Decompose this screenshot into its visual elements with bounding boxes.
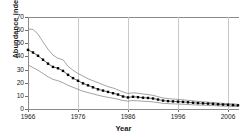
data-point-marker [152, 97, 154, 99]
data-point-marker [187, 101, 189, 103]
data-point-marker [117, 93, 119, 95]
data-point-marker [192, 101, 194, 103]
abundance-index-chart: Abundance index Year 010203040506070 196… [0, 0, 247, 137]
data-point-marker [212, 103, 214, 105]
data-point-marker [237, 104, 239, 106]
data-point-marker [197, 102, 199, 104]
data-point-marker [147, 97, 149, 99]
data-point-marker [77, 80, 79, 82]
data-point-marker [172, 100, 174, 102]
data-point-marker [72, 77, 74, 79]
data-point-marker [62, 70, 64, 72]
data-curves [28, 17, 239, 110]
data-point-marker [177, 100, 179, 102]
data-point-marker [47, 62, 49, 64]
data-point-marker [37, 55, 39, 57]
lower-confidence-line [28, 65, 238, 107]
x-tick-1986: 1986 [108, 113, 148, 120]
x-tick-2006: 2006 [208, 113, 247, 120]
data-point-marker [112, 92, 114, 94]
data-point-marker [137, 96, 139, 98]
data-point-marker [182, 101, 184, 103]
data-point-marker [202, 102, 204, 104]
y-tick-50: 50 [0, 40, 24, 46]
y-tick-30: 30 [0, 67, 24, 73]
data-point-marker [167, 100, 169, 102]
x-axis-title: Year [0, 124, 247, 133]
y-tick-70: 70 [0, 14, 24, 20]
data-point-marker [57, 67, 59, 69]
data-point-marker [127, 96, 129, 98]
data-point-marker [157, 98, 159, 100]
upper-confidence-line [28, 29, 238, 104]
x-tick-1966: 1966 [8, 113, 48, 120]
data-point-marker [97, 88, 99, 90]
data-point-marker [227, 104, 229, 106]
data-point-marker [162, 99, 164, 101]
data-point-marker [52, 66, 54, 68]
y-tick-60: 60 [0, 27, 24, 33]
x-tick-1996: 1996 [158, 113, 198, 120]
data-point-marker [122, 95, 124, 97]
y-tick-40: 40 [0, 53, 24, 59]
data-point-marker [217, 103, 219, 105]
data-point-marker [82, 82, 84, 84]
x-tick-1976: 1976 [58, 113, 98, 120]
data-point-marker [232, 104, 234, 106]
data-point-marker [207, 102, 209, 104]
plot-area [28, 17, 239, 110]
data-point-marker [132, 96, 134, 98]
data-point-marker [32, 51, 34, 53]
data-point-marker [102, 89, 104, 91]
data-point-marker [142, 97, 144, 99]
data-point-marker [67, 74, 69, 76]
data-point-marker [87, 84, 89, 86]
data-point-marker [92, 86, 94, 88]
data-point-marker [42, 59, 44, 61]
data-point-marker [222, 103, 224, 105]
data-point-marker [27, 49, 29, 51]
y-tick-0: 0 [0, 106, 24, 112]
y-tick-10: 10 [0, 93, 24, 99]
y-tick-20: 20 [0, 80, 24, 86]
data-point-marker [107, 91, 109, 93]
